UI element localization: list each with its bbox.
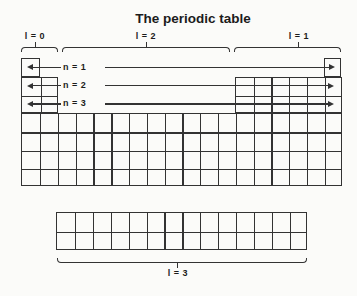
grid-line — [111, 213, 112, 249]
grid-line — [271, 78, 272, 113]
grid-line — [75, 213, 76, 249]
grid-line — [254, 213, 255, 249]
n1-left-line — [32, 67, 61, 68]
grid-line — [182, 114, 183, 185]
grid-line — [307, 114, 308, 185]
grid-line — [307, 78, 308, 113]
l0-bracket — [21, 47, 59, 52]
grid-line — [22, 96, 57, 97]
n3-right-arrowhead — [328, 101, 334, 107]
grid-line — [254, 114, 255, 185]
grid-line — [129, 114, 130, 185]
grid-line — [182, 213, 183, 249]
grid-line — [218, 114, 219, 185]
grid-line — [147, 213, 148, 249]
n3-right-line — [105, 103, 330, 104]
grid-line — [236, 114, 237, 185]
l0-bracket-tick — [35, 42, 36, 47]
grid-line — [218, 213, 219, 249]
n1-label: n = 1 — [63, 62, 95, 73]
l3-bracket-tick — [177, 263, 178, 268]
l1-label: l = 1 — [269, 31, 329, 42]
grid-line — [129, 213, 130, 249]
grid-line — [164, 213, 165, 249]
grid-line — [111, 114, 112, 185]
grid-line — [22, 151, 340, 152]
grid-line — [165, 114, 166, 185]
l2-bracket-tick — [146, 42, 147, 47]
grid-line — [58, 114, 59, 185]
n1-right-arrowhead — [329, 64, 335, 70]
grid-line — [289, 114, 290, 185]
grid-line — [22, 132, 340, 133]
grid-line — [93, 213, 94, 249]
grid-line — [40, 114, 41, 185]
n2-left-line — [32, 85, 61, 86]
grid-line — [325, 114, 326, 185]
grid-line — [57, 232, 306, 233]
grid-line — [76, 114, 77, 185]
grid-line — [271, 114, 272, 185]
grid-line — [147, 114, 148, 185]
n3-label: n = 3 — [63, 98, 95, 109]
l2-bracket — [62, 47, 230, 52]
grid-line — [254, 78, 255, 113]
grid-line — [290, 213, 291, 249]
figure-title: The periodic table — [103, 11, 283, 27]
l3-bracket — [57, 258, 307, 263]
n2-right-line — [105, 85, 330, 86]
periodic-table-figure: The periodic table l = 0 l = 2 l = 1 l =… — [0, 0, 357, 296]
l2-label: l = 2 — [116, 31, 176, 42]
l0-label: l = 0 — [5, 31, 65, 42]
f-block — [56, 212, 307, 250]
grid-line — [236, 96, 341, 97]
l1-bracket — [234, 47, 341, 52]
grid-line — [325, 78, 326, 113]
n2-label: n = 2 — [63, 80, 95, 91]
n1-right-line — [105, 67, 331, 68]
grid-line — [200, 213, 201, 249]
p-block-rows2-3 — [235, 77, 342, 114]
grid-line — [236, 213, 237, 249]
grid-line — [200, 114, 201, 185]
grid-line — [41, 78, 42, 113]
l3-label: l = 3 — [148, 268, 208, 279]
n2-right-arrowhead — [328, 83, 334, 89]
grid-line — [93, 114, 94, 185]
main-rows4-7 — [21, 113, 341, 186]
grid-line — [272, 213, 273, 249]
grid-line — [22, 169, 340, 170]
grid-line — [289, 78, 290, 113]
l1-bracket-tick — [298, 42, 299, 47]
n3-left-line — [32, 103, 61, 104]
